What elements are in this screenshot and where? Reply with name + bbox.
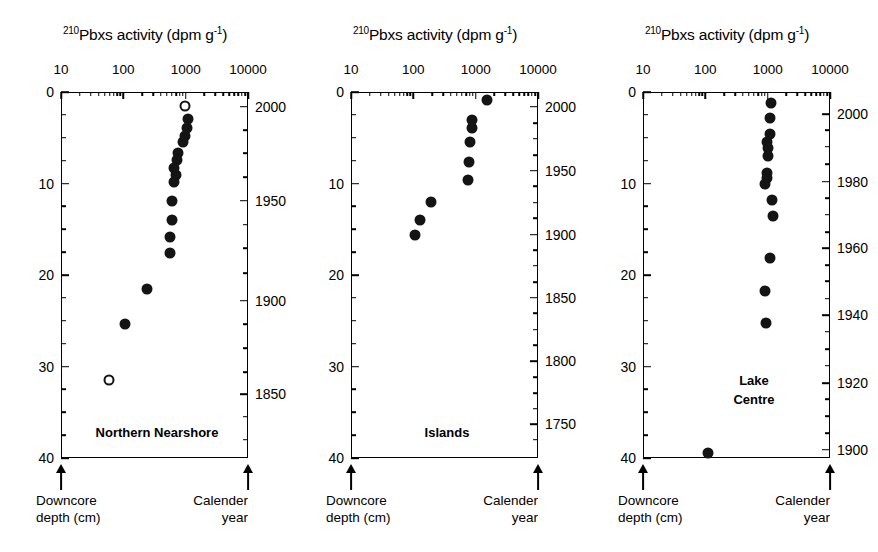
depth-axis-tick (643, 274, 651, 276)
year-axis-minor-tick (825, 197, 830, 199)
data-point (703, 447, 714, 458)
x-axis-minor-tick (680, 92, 682, 96)
year-axis-minor-tick (533, 122, 538, 124)
x-axis-minor-tick (764, 92, 766, 96)
calendar-year-label: Calenderyear (193, 492, 248, 527)
year-axis-tick-label: 2000 (545, 99, 576, 115)
x-axis-tick-label: 1000 (171, 62, 201, 77)
x-axis-minor-tick (442, 92, 444, 96)
isotope-superscript: 210 (63, 25, 79, 36)
year-axis-minor-tick (533, 439, 538, 441)
x-axis-minor-tick (175, 92, 177, 96)
depth-axis-minor-tick (351, 206, 356, 208)
depth-axis-tick (351, 91, 359, 93)
x-axis-minor-tick (407, 92, 409, 96)
data-point (764, 252, 775, 263)
depth-axis-minor-tick (351, 297, 356, 299)
x-axis-minor-tick (152, 92, 154, 96)
panel-label-line: Lake (733, 372, 774, 391)
x-axis-minor-tick (90, 92, 92, 96)
year-axis-tick-label: 1960 (837, 240, 868, 256)
footer-label-line: Downcore (36, 492, 101, 509)
arrow-shaft (829, 471, 831, 490)
data-point (464, 137, 475, 148)
axis-title-main: Pbxs activity (dpm g (369, 26, 504, 43)
depth-axis-tick (61, 91, 69, 93)
depth-axis-minor-tick (351, 434, 356, 436)
arrow-shaft (537, 471, 539, 490)
data-point (425, 196, 436, 207)
year-axis-minor-tick (243, 224, 248, 226)
depth-axis-tick (643, 91, 651, 93)
year-axis-tick-label: 1900 (837, 442, 868, 458)
footer-label-line: depth (cm) (36, 509, 101, 526)
footer-label-line: depth (cm) (618, 509, 683, 526)
x-axis-minor-tick (160, 92, 162, 96)
x-axis-minor-tick (761, 92, 763, 96)
x-axis-minor-tick (531, 92, 533, 96)
x-axis-minor-tick (215, 92, 217, 96)
year-axis-minor-tick (825, 399, 830, 401)
x-axis-minor-tick (734, 92, 736, 96)
data-point (169, 176, 180, 187)
year-axis-minor-tick (533, 329, 538, 331)
x-axis-minor-tick (222, 92, 224, 96)
figure-root: 210Pbxs activity (dpm g-1)10100100010000… (0, 0, 878, 552)
x-axis-minor-tick (117, 92, 119, 96)
depth-axis-minor-tick (643, 137, 648, 139)
x-axis-minor-tick (113, 92, 115, 96)
x-axis-minor-tick (748, 92, 750, 96)
x-axis-minor-tick (695, 92, 697, 96)
data-point (760, 179, 771, 190)
depth-axis-tick (61, 366, 69, 368)
x-axis-minor-tick (820, 92, 822, 96)
data-point (760, 285, 771, 296)
x-axis-minor-tick (403, 92, 405, 96)
arrow-shaft (642, 471, 644, 490)
year-axis-tick (822, 314, 830, 316)
year-axis-tick (530, 170, 538, 172)
data-point (463, 156, 474, 167)
x-axis-tick (475, 92, 477, 99)
depth-axis-minor-tick (351, 160, 356, 162)
depth-axis-tick (643, 366, 651, 368)
depth-axis-minor-tick (61, 411, 66, 413)
x-axis-title: 210Pbxs activity (dpm g-1) (0, 26, 290, 44)
year-axis-minor-tick (243, 176, 248, 178)
depth-axis-tick (61, 183, 69, 185)
exponent-superscript: -1 (214, 25, 223, 36)
panel-label: LakeCentre (733, 372, 774, 410)
x-axis-minor-tick (450, 92, 452, 96)
x-axis-tick (185, 92, 187, 99)
footer-label-line: Calender (483, 492, 538, 509)
x-axis-minor-tick (109, 92, 111, 96)
x-axis-minor-tick (528, 92, 530, 96)
x-axis-minor-tick (753, 92, 755, 96)
year-axis-tick-label: 2000 (837, 106, 868, 122)
x-axis-minor-tick (166, 92, 168, 96)
year-axis-minor-tick (533, 392, 538, 394)
downcore-depth-arrow (344, 464, 358, 490)
x-axis-minor-tick (505, 92, 507, 96)
arrow-shaft (247, 471, 249, 490)
x-axis-tick (829, 92, 831, 99)
x-axis-tick (413, 92, 415, 99)
x-axis-minor-tick (672, 92, 674, 96)
exponent-superscript: -1 (796, 25, 805, 36)
x-axis-minor-tick (233, 92, 235, 96)
year-axis-minor-tick (825, 214, 830, 216)
x-axis-minor-tick (369, 92, 371, 96)
year-axis-tick-label: 2000 (255, 99, 286, 115)
x-axis-minor-tick (512, 92, 514, 96)
year-axis-tick (822, 181, 830, 183)
footer-label-line: year (483, 509, 538, 526)
x-axis-minor-tick (380, 92, 382, 96)
depth-axis-tick (351, 366, 359, 368)
year-axis-minor-tick (825, 231, 830, 233)
year-axis-tick (240, 393, 248, 395)
x-axis-minor-tick (241, 92, 243, 96)
x-axis-minor-tick (472, 92, 474, 96)
x-axis-minor-tick (456, 92, 458, 96)
year-axis-minor-tick (533, 202, 538, 204)
axis-title-close: ) (804, 26, 809, 43)
